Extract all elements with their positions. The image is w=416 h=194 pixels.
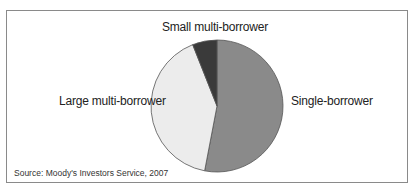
label-large-multi-borrower: Large multi-borrower	[59, 94, 166, 108]
label-single-borrower: Single-borrower	[291, 94, 373, 108]
label-small-multi-borrower: Small multi-borrower	[162, 20, 268, 34]
source-note: Source: Moody's Investors Service, 2007	[14, 168, 168, 178]
